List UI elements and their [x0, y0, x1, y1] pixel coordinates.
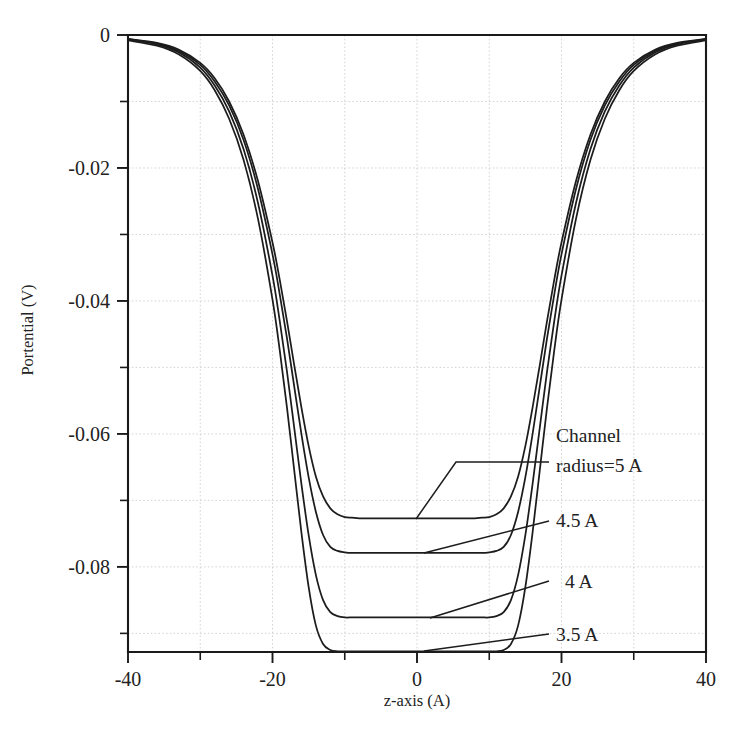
- x-tick-label: -20: [259, 668, 286, 690]
- x-tick-label: 0: [412, 668, 422, 690]
- x-tick-label: -40: [115, 668, 142, 690]
- annotation-5a-line2: radius=5 A: [556, 455, 642, 476]
- annotation-45a: 4.5 A: [556, 510, 598, 531]
- annotation-35a: 3.5 A: [556, 624, 598, 645]
- y-tick-label: -0.06: [68, 423, 110, 445]
- chart-figure: 0-0.02-0.04-0.06-0.08-40-2002040 z-axis …: [0, 0, 729, 739]
- chart-background: [0, 0, 729, 739]
- y-tick-label: -0.04: [68, 290, 110, 312]
- x-tick-label: 40: [696, 668, 716, 690]
- y-tick-label: -0.02: [68, 157, 110, 179]
- x-axis-title: z-axis (A): [384, 691, 450, 710]
- y-tick-label: -0.08: [68, 556, 110, 578]
- x-tick-label: 20: [552, 668, 572, 690]
- y-tick-label: 0: [100, 24, 110, 46]
- annotation-5a-line1: Channel: [556, 425, 622, 446]
- y-axis-title: Portential (V): [18, 284, 37, 375]
- annotation-4a: 4 A: [565, 571, 593, 592]
- potential-line-chart: 0-0.02-0.04-0.06-0.08-40-2002040 z-axis …: [0, 0, 729, 739]
